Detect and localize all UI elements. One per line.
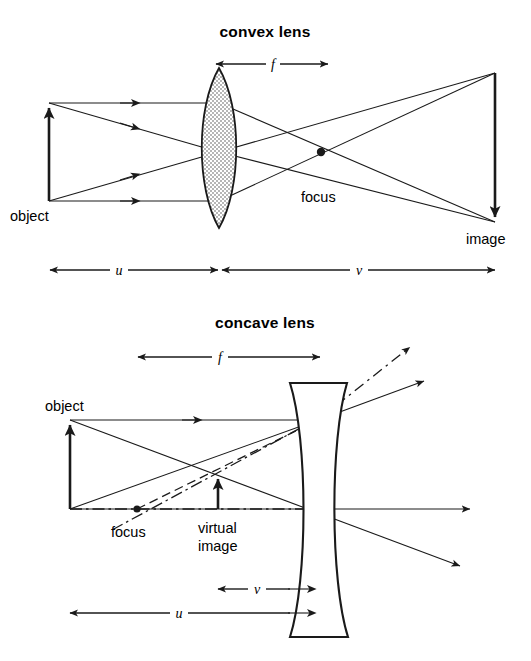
convex-title: convex lens	[220, 23, 311, 40]
convex-image-label: image	[466, 231, 506, 247]
concave-focus-point	[133, 505, 140, 512]
convex-panel	[49, 64, 495, 270]
concave-virtual-label: virtual	[198, 520, 237, 536]
convex-ray-direction-marker-2	[120, 123, 136, 128]
convex-v-label: v	[356, 263, 363, 278]
concave-construction-line-2	[112, 412, 330, 530]
concave-chief-ray	[70, 420, 460, 566]
optics-diagram-page: convex lens f object focus image u v con…	[0, 0, 531, 661]
convex-focus-label: focus	[301, 189, 336, 205]
convex-u-label: u	[116, 263, 123, 278]
convex-f-label: f	[271, 57, 277, 72]
concave-image-label: image	[198, 538, 238, 554]
convex-ray-direction-marker-3	[120, 175, 136, 180]
convex-focus-point	[317, 148, 325, 156]
convex-object-label: object	[10, 208, 49, 224]
concave-f-label: f	[218, 350, 224, 365]
concave-u-label: u	[176, 606, 183, 621]
concave-focus-label: focus	[111, 524, 146, 540]
concave-v-label: v	[254, 582, 261, 597]
convex-lens-body	[202, 68, 237, 228]
concave-object-label: object	[45, 398, 84, 414]
concave-lens-body	[290, 383, 348, 637]
convex-chief-ray-lower	[49, 152, 219, 201]
concave-title: concave lens	[215, 314, 315, 331]
convex-refracted-ray-3	[219, 73, 495, 201]
concave-panel	[70, 347, 470, 637]
convex-refracted-ray-4	[219, 73, 495, 152]
lens-ray-diagram-svg: convex lens f object focus image u v con…	[0, 0, 531, 661]
